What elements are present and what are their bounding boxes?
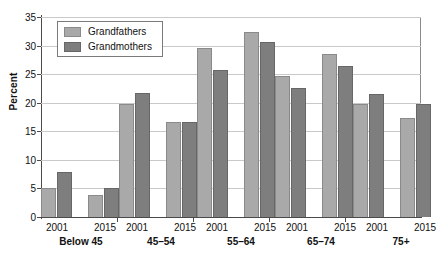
y-axis-tick-label: 15 <box>14 127 36 137</box>
bar-grandfathers <box>353 104 368 217</box>
bar-grandfathers <box>88 195 103 217</box>
bar-grandmothers <box>369 94 384 217</box>
bar-grandfathers <box>400 118 415 217</box>
x-axis-group-label: 65–74 <box>307 236 335 247</box>
bar-grandfathers <box>197 48 212 217</box>
bar-grandmothers <box>416 104 431 217</box>
bar-group-years <box>275 17 353 217</box>
bar-grandmothers <box>135 93 150 217</box>
bar-grandmothers <box>57 172 72 217</box>
bar-pair <box>244 17 275 217</box>
bar-pair <box>353 17 384 217</box>
bar-grandfathers <box>41 188 56 217</box>
legend-item-grandmothers: Grandmothers <box>64 41 152 52</box>
legend-swatch-grandmothers-icon <box>64 42 81 52</box>
x-axis-group: 2001201545–54 <box>121 222 201 262</box>
legend-label-grandmothers: Grandmothers <box>88 41 152 52</box>
bar-grandfathers <box>275 76 290 217</box>
x-axis-year-labels: 20012015 <box>121 222 201 233</box>
x-axis-group-label: 55–64 <box>227 236 255 247</box>
x-axis-year-label: 2001 <box>121 222 153 233</box>
x-axis-year-labels: 20012015 <box>361 222 441 233</box>
bar-grandfathers <box>244 32 259 217</box>
y-axis-tick-label: 5 <box>14 184 36 194</box>
x-axis-year-labels: 20012015 <box>201 222 281 233</box>
y-axis-title: Percent <box>8 57 19 127</box>
x-axis-year-label: 2015 <box>169 222 201 233</box>
bar-pair <box>400 17 431 217</box>
bar-group-years <box>197 17 275 217</box>
bar-pair <box>197 17 228 217</box>
y-axis-tick-mark <box>37 217 41 218</box>
bar-grandmothers <box>182 122 197 217</box>
x-axis-year-label: 2001 <box>41 222 73 233</box>
bar-grandfathers <box>322 54 337 217</box>
bar-group <box>353 17 431 217</box>
x-axis-year-label: 2015 <box>329 222 361 233</box>
bar-grandfathers <box>119 104 134 217</box>
bar-grandfathers <box>166 122 181 217</box>
x-axis-group: 2001201555–64 <box>201 222 281 262</box>
bar-pair <box>322 17 353 217</box>
bar-pair <box>166 17 197 217</box>
y-axis-tick-label: 10 <box>14 156 36 166</box>
y-axis-tick-label: 0 <box>14 213 36 223</box>
x-axis-year-label: 2015 <box>409 222 441 233</box>
chart-legend: Grandfathers Grandmothers <box>57 21 163 57</box>
bar-grandmothers <box>213 70 228 217</box>
bar-pair <box>275 17 306 217</box>
y-axis-tick-label: 35 <box>14 13 36 23</box>
y-axis-tick-label: 30 <box>14 42 36 52</box>
y-axis-tick-label: 20 <box>14 99 36 109</box>
bar-grandmothers <box>291 88 306 217</box>
bar-grandmothers <box>338 66 353 217</box>
y-axis-tick-label: 25 <box>14 70 36 80</box>
x-axis-year-label: 2001 <box>201 222 233 233</box>
legend-label-grandfathers: Grandfathers <box>88 26 146 37</box>
x-axis-year-label: 2001 <box>281 222 313 233</box>
x-axis-year-label: 2001 <box>361 222 393 233</box>
x-axis-group: 2001201575+ <box>361 222 441 262</box>
x-axis-year-label: 2015 <box>249 222 281 233</box>
bar-grandmothers <box>260 42 275 217</box>
x-axis-group: 20012015Below 45 <box>41 222 121 262</box>
legend-swatch-grandfathers-icon <box>64 27 81 37</box>
bar-grandmothers <box>104 188 119 217</box>
x-axis-group-label: Below 45 <box>59 236 102 247</box>
legend-item-grandfathers: Grandfathers <box>64 26 152 37</box>
x-axis-labels: 20012015Below 452001201545–542001201555–… <box>41 222 421 262</box>
x-axis-group-label: 45–54 <box>147 236 175 247</box>
x-axis-year-labels: 20012015 <box>41 222 121 233</box>
x-axis-group: 2001201565–74 <box>281 222 361 262</box>
bar-group <box>275 17 353 217</box>
bar-group <box>197 17 275 217</box>
x-axis-year-label: 2015 <box>89 222 121 233</box>
x-axis-group-label: 75+ <box>393 236 410 247</box>
x-axis-line <box>40 217 422 218</box>
bar-group-years <box>353 17 431 217</box>
x-axis-year-labels: 20012015 <box>281 222 361 233</box>
